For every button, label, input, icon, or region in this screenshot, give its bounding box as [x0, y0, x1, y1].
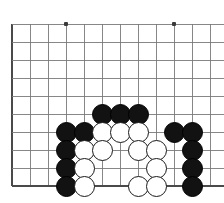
go-diagram	[0, 0, 224, 203]
white-stone[interactable]	[92, 140, 113, 161]
star-point	[64, 22, 68, 26]
black-stone[interactable]	[182, 176, 203, 197]
star-point	[172, 22, 176, 26]
white-stone[interactable]	[74, 176, 95, 197]
white-stone[interactable]	[146, 176, 167, 197]
